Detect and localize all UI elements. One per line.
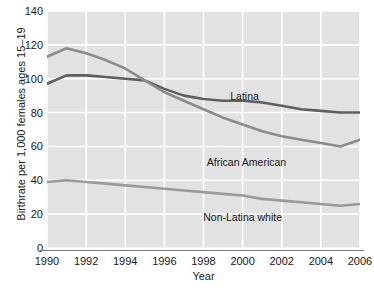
y-tick-label: 60: [3, 140, 43, 152]
x-axis-line: [40, 250, 364, 251]
y-tick-label: 140: [3, 5, 43, 17]
series-annotation: African American: [207, 156, 286, 168]
y-tick-label: 100: [3, 73, 43, 85]
y-axis-tick-labels: 020406080100120140: [0, 11, 43, 248]
y-tick-label: 0: [3, 242, 43, 254]
series-annotation: Non-Latina white: [203, 211, 282, 223]
x-tick-label: 2006: [337, 255, 374, 267]
x-axis-title: Year: [47, 270, 360, 282]
y-tick-label: 120: [3, 39, 43, 51]
y-tick-label: 20: [3, 208, 43, 220]
x-axis-tick-labels: 199019921994199619982000200220042006: [47, 255, 360, 269]
series-annotation: Latina: [230, 90, 259, 102]
y-tick-label: 40: [3, 174, 43, 186]
y-tick-label: 80: [3, 107, 43, 119]
line-chart: Birthrate per 1,000 females ages 15–19 0…: [0, 0, 374, 291]
